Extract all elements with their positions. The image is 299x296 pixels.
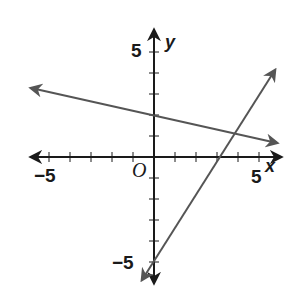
y-axis-name-label: y xyxy=(165,33,175,51)
x-axis-max-label: 5 xyxy=(251,167,262,186)
coordinate-plane xyxy=(0,0,299,296)
origin-label: O xyxy=(132,160,146,180)
y-axis-max-label: 5 xyxy=(131,41,142,60)
x-axis-name-label: x xyxy=(265,157,275,175)
y-axis-min-label: −5 xyxy=(112,253,134,272)
x-axis-min-label: −5 xyxy=(34,166,56,185)
